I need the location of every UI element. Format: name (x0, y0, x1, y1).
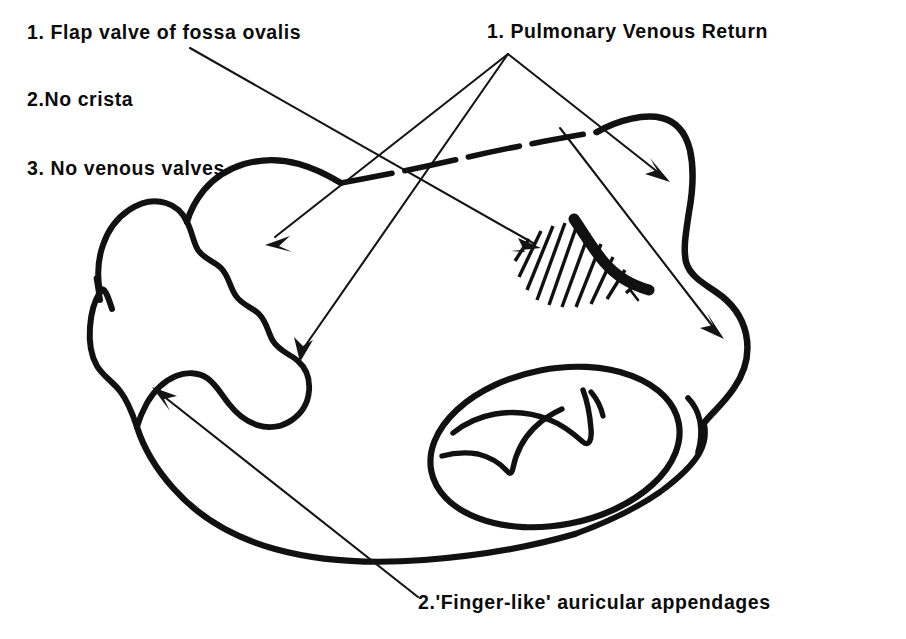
atrium-right-notch-hook (688, 398, 701, 452)
arrow-head-pvr-right-lower (700, 313, 724, 339)
leader-pvr-to-left-lower (294, 54, 508, 362)
leader-appendages-to-left-appendage (152, 387, 418, 597)
fossa-ovalis-hatching (515, 223, 637, 307)
heart-diagram-svg (0, 0, 906, 639)
label-no-crista: 2.No crista (27, 89, 133, 109)
atrium-cut-edge-dashed (341, 132, 597, 183)
tricuspid-septal-leaflet (442, 409, 562, 473)
arrow-head-pvr-upper-left (265, 236, 292, 252)
appendage-superior-contour (98, 201, 187, 292)
arrow-head-left-appendage (152, 387, 177, 411)
atrium-inferior-margin (137, 427, 575, 562)
tricuspid-commissure-line (591, 392, 603, 416)
label-no-venous-valves: 3. No venous valves (27, 158, 225, 178)
appendage-outer-lower-contour (90, 292, 137, 427)
fossa-ovalis-free-tick (631, 291, 638, 300)
label-flap-valve-of-fossa-ovalis: 1. Flap valve of fossa ovalis (27, 22, 301, 42)
leader-pvr-to-upper-left (265, 54, 508, 252)
anatomical-figure: 1. Flap valve of fossa ovalis 2.No crist… (0, 0, 906, 639)
arrow-head-pvr-right-upper (645, 158, 670, 182)
label-pulmonary-venous-return: 1. Pulmonary Venous Return (487, 21, 768, 41)
tricuspid-orifice-ellipse (416, 346, 693, 547)
label-finger-like-auricular-appendages: 2.'Finger-like' auricular appendages (418, 592, 771, 612)
